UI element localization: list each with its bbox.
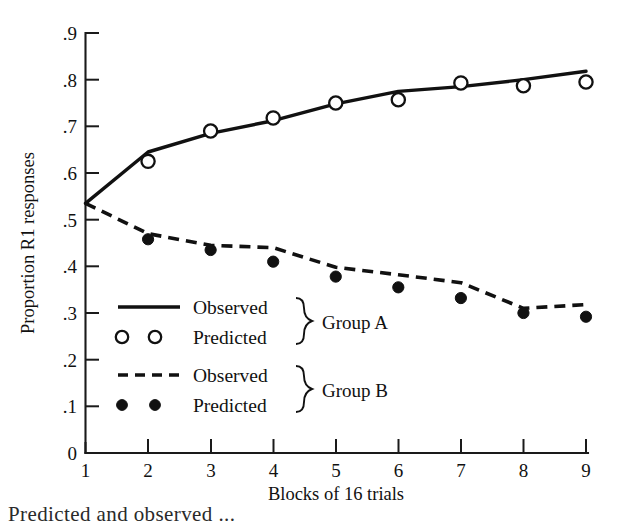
x-tick-label: 1: [81, 460, 91, 481]
data-point-filled-circle: [455, 292, 466, 303]
data-point-filled-circle: [393, 282, 404, 293]
data-point-filled-circle: [580, 311, 591, 322]
figure-container: 0 .1 .2 .3 .4 .5 .6 .7 .8 .9 1 2: [0, 0, 635, 526]
legend-label: Predicted: [193, 395, 267, 416]
filled-circle-icon: [117, 400, 128, 411]
y-tick-label: .3: [63, 303, 77, 324]
y-axis-tick-labels: 0 .1 .2 .3 .4 .5 .6 .7 .8 .9: [63, 23, 78, 464]
y-tick-label: .4: [63, 256, 78, 277]
group-b-brace-icon: [296, 366, 312, 412]
legend-group-b-label: Group B: [322, 380, 388, 401]
x-tick-label: 2: [143, 460, 153, 481]
x-axis-tick-labels: 1 2 3 4 5 6 7 8 9: [81, 460, 591, 481]
y-tick-label: .7: [63, 116, 77, 137]
legend-label: Observed: [193, 365, 268, 386]
y-tick-label: 0: [68, 443, 78, 464]
x-tick-label: 5: [331, 460, 341, 481]
group-a-observed-line: [86, 71, 587, 203]
legend-label: Predicted: [193, 327, 267, 348]
y-tick-label: .5: [63, 210, 77, 231]
x-tick-label: 3: [206, 460, 216, 481]
x-tick-label: 4: [269, 460, 279, 481]
data-point-open-circle: [267, 111, 280, 124]
data-point-open-circle: [454, 76, 467, 89]
x-tick-label: 8: [519, 460, 529, 481]
data-point-filled-circle: [518, 307, 529, 318]
x-tick-label: 6: [394, 460, 404, 481]
data-point-open-circle: [141, 155, 154, 168]
data-point-filled-circle: [268, 256, 279, 267]
group-a-brace-icon: [296, 298, 312, 344]
x-axis-ticks: [86, 439, 587, 453]
x-tick-label: 9: [581, 460, 591, 481]
data-point-filled-circle: [205, 244, 216, 255]
data-point-open-circle: [204, 124, 217, 137]
caption-strip: Predicted and observed ...: [0, 500, 635, 526]
y-tick-label: .6: [63, 163, 77, 184]
data-point-open-circle: [517, 79, 530, 92]
y-tick-label: .1: [63, 396, 77, 417]
x-tick-label: 7: [456, 460, 466, 481]
open-circle-icon: [149, 331, 161, 343]
line-chart: 0 .1 .2 .3 .4 .5 .6 .7 .8 .9 1 2: [0, 0, 635, 526]
caption-text: Predicted and observed ...: [8, 502, 235, 526]
legend-label: Observed: [193, 297, 268, 318]
y-tick-label: .8: [63, 70, 77, 91]
group-b-observed-line: [86, 203, 587, 308]
data-point-filled-circle: [142, 234, 153, 245]
filled-circle-icon: [150, 400, 161, 411]
y-tick-label: .2: [63, 350, 77, 371]
data-point-open-circle: [329, 96, 342, 109]
data-point-open-circle: [392, 93, 405, 106]
y-axis-ticks: [86, 33, 100, 453]
legend-group-a-label: Group A: [322, 312, 388, 333]
group-a-predicted-markers: [141, 75, 592, 168]
y-tick-label: .9: [63, 23, 77, 44]
data-point-filled-circle: [330, 271, 341, 282]
y-axis-title: Proportion R1 responses: [18, 152, 38, 334]
open-circle-icon: [116, 331, 128, 343]
legend: Observed Predicted Group A Observed Pred…: [116, 297, 388, 416]
data-point-open-circle: [579, 75, 592, 88]
